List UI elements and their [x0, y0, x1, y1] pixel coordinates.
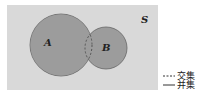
set-b-label: B: [101, 42, 110, 53]
venn-diagram: A B S 交集 并集: [0, 0, 198, 101]
universe-label: S: [141, 14, 148, 25]
legend-union-label: 并集: [177, 79, 195, 90]
set-a-label: A: [43, 37, 52, 48]
